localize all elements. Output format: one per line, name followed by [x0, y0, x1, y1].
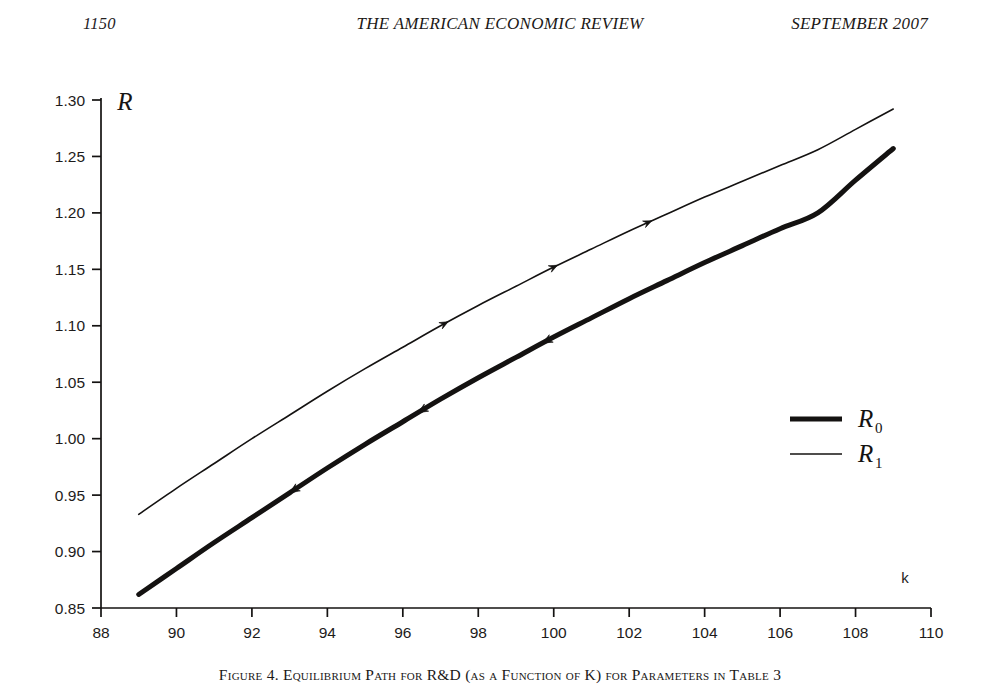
- direction-arrow-r1: [548, 262, 559, 272]
- figure-caption: Figure 4. Equilibrium Path for R&D (as a…: [0, 666, 1000, 684]
- x-tick-label: 90: [168, 624, 186, 641]
- legend-entry-r1[interactable]: R1: [790, 440, 883, 471]
- legend-subscript-r0: 0: [875, 420, 883, 436]
- x-tick-label: 106: [767, 624, 793, 641]
- chart-legend: R0R1: [790, 405, 883, 471]
- legend-subscript-r1: 1: [875, 455, 883, 471]
- y-tick-label: 1.10: [55, 317, 86, 334]
- x-tick-label: 98: [470, 624, 487, 641]
- x-tick-label: 100: [541, 624, 567, 641]
- y-tick-label: 1.20: [55, 204, 86, 221]
- figure-4: 0.850.900.951.001.051.101.151.201.251.30…: [0, 48, 1000, 692]
- x-tick-label: 104: [692, 624, 718, 641]
- x-tick-label: 96: [394, 624, 411, 641]
- y-tick-label: 1.00: [55, 430, 86, 447]
- legend-label-r1: R: [857, 440, 873, 467]
- x-tick-label: 94: [319, 624, 337, 641]
- y-tick-label: 1.25: [55, 148, 85, 165]
- running-head: 1150 THE AMERICAN ECONOMIC REVIEW SEPTEM…: [0, 14, 1000, 38]
- equilibrium-path-chart: 0.850.900.951.001.051.101.151.201.251.30…: [0, 48, 1000, 648]
- y-tick-label: 1.15: [55, 261, 85, 278]
- y-tick-label: 0.85: [55, 600, 85, 617]
- y-tick-label: 0.95: [55, 487, 85, 504]
- x-tick-label: 92: [243, 624, 260, 641]
- x-tick-label: 88: [92, 624, 109, 641]
- x-tick-label: 108: [843, 624, 869, 641]
- y-tick-label: 1.05: [55, 374, 85, 391]
- y-axis-label: R: [116, 88, 132, 115]
- x-axis-label: k: [901, 569, 909, 586]
- series-r0: [139, 149, 894, 595]
- curve-r1: [139, 109, 894, 514]
- x-tick-label: 110: [919, 624, 944, 641]
- direction-arrow-r1: [643, 218, 654, 228]
- legend-entry-r0[interactable]: R0: [790, 405, 883, 436]
- legend-label-r0: R: [857, 405, 873, 432]
- direction-arrow-r1: [439, 319, 450, 329]
- curve-r0: [139, 149, 894, 595]
- issue-date: SEPTEMBER 2007: [791, 14, 928, 34]
- series-r1: [139, 109, 894, 514]
- y-tick-label: 1.30: [55, 92, 86, 109]
- x-tick-label: 102: [616, 624, 642, 641]
- y-tick-label: 0.90: [55, 543, 86, 560]
